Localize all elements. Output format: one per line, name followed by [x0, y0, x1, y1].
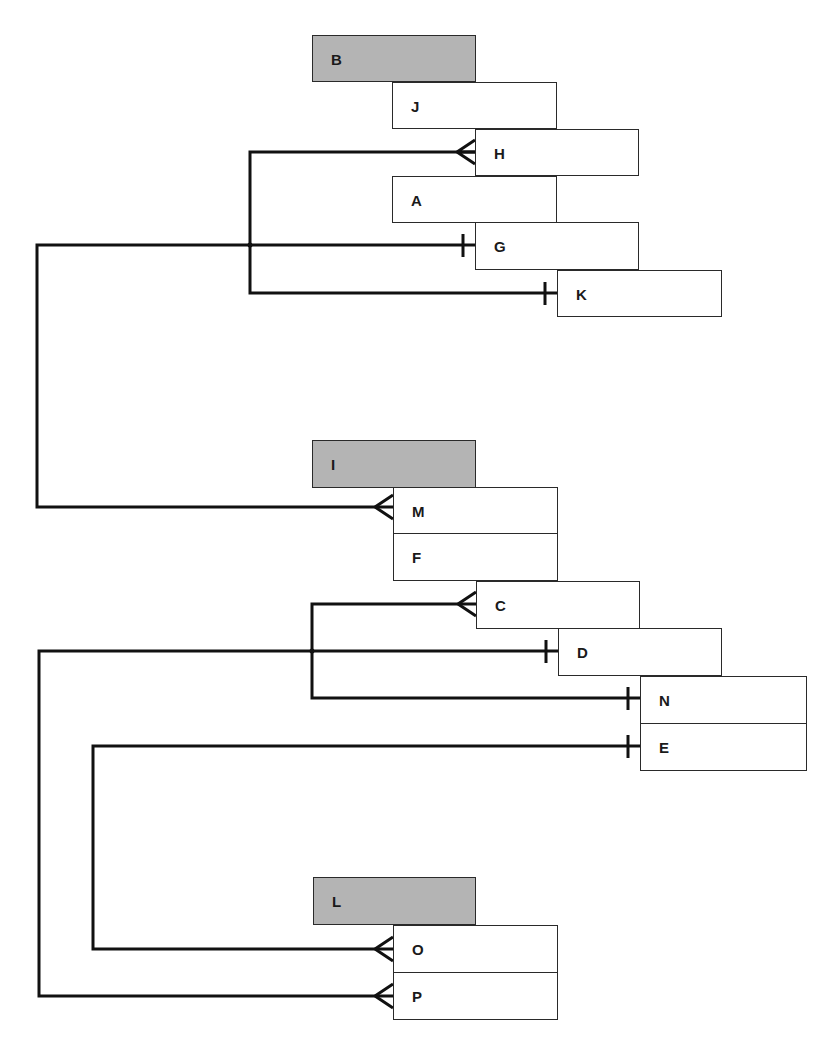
- entity-e: E: [640, 723, 807, 771]
- entity-label: H: [494, 144, 505, 161]
- entity-b-header: B: [312, 35, 476, 82]
- entity-label: D: [577, 644, 588, 661]
- entity-label: F: [412, 549, 422, 566]
- entity-label: K: [576, 285, 587, 302]
- entity-h: H: [475, 129, 639, 176]
- entity-i-header: I: [312, 440, 476, 488]
- entity-label: M: [412, 502, 425, 519]
- entity-label: B: [331, 50, 342, 67]
- entity-label: N: [659, 692, 670, 709]
- entity-c: C: [476, 581, 640, 629]
- entity-label: P: [412, 988, 423, 1005]
- entity-d: D: [558, 628, 722, 676]
- entity-n: N: [640, 676, 807, 724]
- entity-g: G: [475, 222, 639, 270]
- entity-o: O: [393, 925, 558, 973]
- entity-label: E: [659, 739, 670, 756]
- entity-k: K: [557, 270, 722, 317]
- entity-label: O: [412, 941, 424, 958]
- crows-foot-h: [457, 140, 475, 164]
- entity-m: M: [393, 487, 558, 534]
- entity-label: J: [411, 97, 420, 114]
- entity-p: P: [393, 972, 558, 1020]
- entity-label: A: [411, 191, 422, 208]
- entity-j: J: [392, 82, 557, 129]
- entity-l-header: L: [313, 877, 476, 925]
- entity-label: C: [495, 597, 506, 614]
- entity-label: G: [494, 238, 506, 255]
- er-diagram: B J H A G K I M F C D N E L O P: [0, 0, 839, 1050]
- entity-a: A: [392, 176, 557, 223]
- entity-label: I: [331, 456, 336, 473]
- entity-f: F: [393, 533, 558, 581]
- entity-label: L: [332, 893, 342, 910]
